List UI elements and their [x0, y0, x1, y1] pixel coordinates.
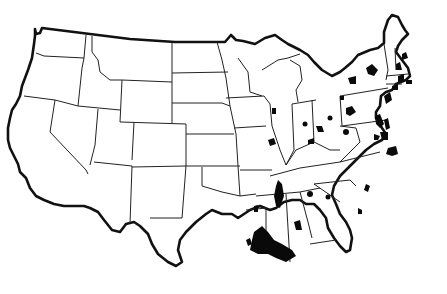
highlight-massachusetts-cape: [406, 80, 412, 84]
highlight-alabama-central: [307, 191, 313, 197]
highlight-illinois-stlouis: [272, 108, 276, 114]
us-outline: [8, 15, 410, 266]
highlight-ohio-central: [328, 116, 333, 121]
highlight-delaware: [384, 118, 390, 130]
highlight-arkansas: [254, 205, 258, 212]
us-map: [0, 0, 447, 294]
highlight-west-virginia: [343, 129, 349, 135]
highlight-nc-coast: [386, 146, 398, 156]
highlight-sc-charleston: [364, 184, 370, 192]
highlight-indiana-central: [303, 122, 308, 127]
highlight-maine: [402, 52, 408, 60]
highlight-ohio-lake-erie: [340, 96, 344, 100]
highlight-georgia-savannah: [358, 208, 362, 214]
highlight-georgia-west: [326, 195, 331, 200]
highlight-alabama-mobile: [294, 220, 302, 230]
